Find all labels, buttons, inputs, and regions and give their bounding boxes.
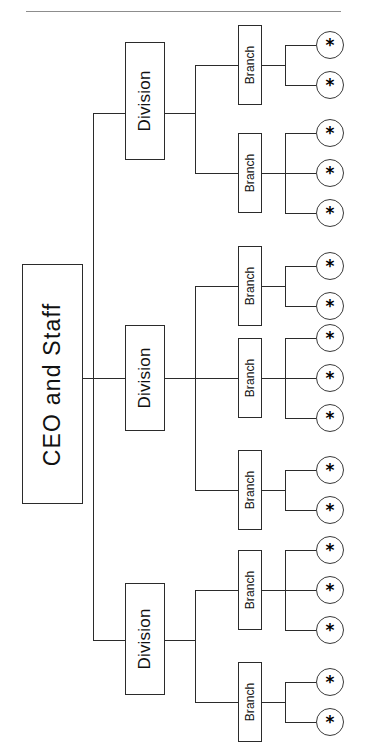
asterisk-icon: * — [326, 330, 335, 347]
node-branch-3-1[interactable]: Branch — [238, 550, 262, 630]
leaf-node-2-2-3[interactable]: * — [316, 404, 344, 432]
asterisk-icon: * — [326, 462, 335, 479]
node-label: Division — [135, 608, 155, 669]
node-ceo-and-staff[interactable]: CEO and Staff — [22, 264, 83, 504]
node-division-2[interactable]: Division — [125, 325, 165, 431]
asterisk-icon: * — [326, 542, 335, 559]
leaf-node-3-2-2[interactable]: * — [316, 708, 344, 736]
node-branch-2-2[interactable]: Branch — [238, 338, 262, 418]
leaf-node-1-2-2[interactable]: * — [316, 159, 344, 187]
node-label: Branch — [243, 46, 257, 85]
node-branch-1-2[interactable]: Branch — [238, 133, 262, 213]
leaf-node-3-1-2[interactable]: * — [316, 576, 344, 604]
node-branch-3-2[interactable]: Branch — [238, 662, 262, 742]
node-label: Branch — [243, 571, 257, 610]
asterisk-icon: * — [326, 714, 335, 731]
organization-chart-page: ORGANIZATION CHART — [0, 0, 367, 747]
asterisk-icon: * — [326, 165, 335, 182]
asterisk-icon: * — [326, 205, 335, 222]
leaf-node-3-1-1[interactable]: * — [316, 536, 344, 564]
node-division-3[interactable]: Division — [125, 583, 165, 695]
asterisk-icon: * — [326, 410, 335, 427]
asterisk-icon: * — [326, 622, 335, 639]
node-division-1[interactable]: Division — [125, 42, 165, 160]
leaf-node-1-1-1[interactable]: * — [316, 31, 344, 59]
node-label: Branch — [243, 359, 257, 398]
node-label: Division — [135, 347, 155, 408]
leaf-node-3-1-3[interactable]: * — [316, 616, 344, 644]
node-label: Division — [135, 70, 155, 131]
leaf-node-2-1-1[interactable]: * — [316, 252, 344, 280]
leaf-node-2-2-1[interactable]: * — [316, 324, 344, 352]
leaf-node-2-3-1[interactable]: * — [316, 456, 344, 484]
leaf-node-2-1-2[interactable]: * — [316, 292, 344, 320]
node-label: Branch — [243, 683, 257, 722]
asterisk-icon: * — [326, 370, 335, 387]
node-branch-2-3[interactable]: Branch — [238, 450, 262, 530]
node-label: Branch — [243, 471, 257, 510]
node-branch-2-1[interactable]: Branch — [238, 246, 262, 326]
leaf-node-1-2-1[interactable]: * — [316, 119, 344, 147]
asterisk-icon: * — [326, 125, 335, 142]
leaf-node-1-1-2[interactable]: * — [316, 71, 344, 99]
asterisk-icon: * — [326, 674, 335, 691]
asterisk-icon: * — [326, 582, 335, 599]
leaf-node-3-2-1[interactable]: * — [316, 668, 344, 696]
asterisk-icon: * — [326, 502, 335, 519]
node-branch-1-1[interactable]: Branch — [238, 25, 262, 105]
leaf-node-2-2-2[interactable]: * — [316, 364, 344, 392]
node-label: Branch — [243, 267, 257, 306]
leaf-node-2-3-2[interactable]: * — [316, 496, 344, 524]
node-label: CEO and Staff — [39, 302, 66, 465]
leaf-node-1-2-3[interactable]: * — [316, 199, 344, 227]
node-label: Branch — [243, 154, 257, 193]
asterisk-icon: * — [326, 298, 335, 315]
asterisk-icon: * — [326, 77, 335, 94]
asterisk-icon: * — [326, 258, 335, 275]
asterisk-icon: * — [326, 37, 335, 54]
